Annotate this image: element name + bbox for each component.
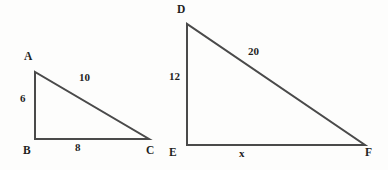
- triangle-def-outline: [187, 24, 365, 145]
- triangles-figure: [0, 0, 388, 170]
- vertex-label-a: A: [24, 50, 33, 62]
- triangle-abc-outline: [35, 72, 149, 139]
- side-label-ac: 10: [79, 71, 90, 83]
- side-label-ef: x: [239, 147, 245, 159]
- vertex-label-c: C: [146, 144, 155, 156]
- diagram-canvas: A B C 6 8 10 D E F 12 x 20: [0, 0, 388, 170]
- vertex-label-f: F: [365, 146, 372, 158]
- vertex-label-e: E: [169, 146, 177, 158]
- triangle-abc-shape: [35, 72, 149, 139]
- side-label-ab: 6: [20, 92, 26, 104]
- side-label-de: 12: [169, 70, 180, 82]
- side-label-bc: 8: [75, 141, 81, 153]
- vertex-label-d: D: [177, 3, 186, 15]
- vertex-label-b: B: [23, 144, 31, 156]
- side-label-df: 20: [248, 45, 259, 57]
- triangle-def-shape: [187, 24, 365, 145]
